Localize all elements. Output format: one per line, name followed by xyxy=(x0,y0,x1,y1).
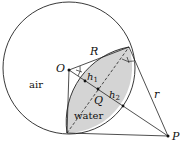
label-P: P xyxy=(171,130,180,143)
point-O xyxy=(68,69,71,72)
droplet-diagram: O R h1 h2 Q r P air water xyxy=(0,0,187,149)
label-Q: Q xyxy=(94,94,103,107)
bottom-to-P-line xyxy=(67,133,168,136)
point-Q xyxy=(97,88,100,91)
label-water: water xyxy=(74,110,103,121)
label-r: r xyxy=(154,88,160,101)
label-air: air xyxy=(29,79,43,90)
label-O: O xyxy=(56,62,65,75)
angle-tick-O xyxy=(76,70,82,72)
point-h2-end xyxy=(122,105,125,108)
point-h1-end xyxy=(84,80,87,83)
label-R: R xyxy=(89,45,98,58)
point-P xyxy=(167,135,170,138)
